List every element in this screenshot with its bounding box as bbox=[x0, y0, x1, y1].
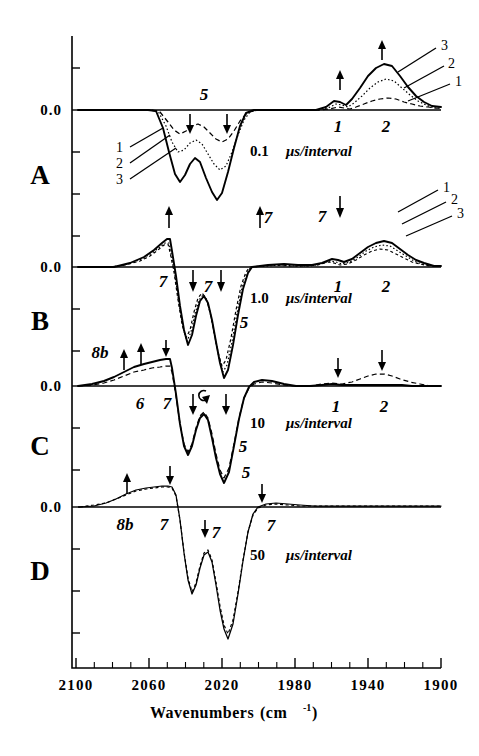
arrow-down-c4 bbox=[334, 358, 342, 378]
x-tick-label: 2020 bbox=[205, 677, 240, 693]
spectra-svg: 0.0 0.0 0.0 0.0 A B C D 5 1 2 1 2 bbox=[0, 0, 479, 756]
interval-value-b: 1.0 bbox=[250, 290, 269, 306]
band-label-a-5: 5 bbox=[200, 85, 209, 104]
x-tick-label: 1980 bbox=[278, 677, 313, 693]
y-axis-ticks bbox=[72, 68, 80, 633]
x-axis-tick-labels: 210020602020198019401900 bbox=[59, 677, 459, 693]
band-label-b-7b: 7 bbox=[204, 277, 214, 296]
interval-value-d: 50 bbox=[250, 547, 265, 563]
leader-b-2 bbox=[402, 202, 446, 224]
trace-num-a-2: 2 bbox=[116, 156, 123, 171]
band-label-a-2: 2 bbox=[381, 117, 391, 136]
panel-letter-a: A bbox=[30, 160, 50, 190]
figure-trir-spectra: 0.0 0.0 0.0 0.0 A B C D 5 1 2 1 2 bbox=[0, 0, 479, 756]
x-tick-label: 2100 bbox=[59, 677, 94, 693]
band-label-b-7a: 7 bbox=[159, 272, 169, 291]
trace-num-a-1: 1 bbox=[116, 140, 123, 155]
arrow-down-c2 bbox=[189, 394, 197, 415]
panel-a-annotations: 5 1 2 1 2 3 3 2 1 0.1 μs/interval bbox=[116, 38, 462, 187]
arrow-down-c3 bbox=[222, 394, 230, 415]
band-label-a-1: 1 bbox=[334, 117, 343, 136]
panel-b-traces bbox=[78, 239, 441, 378]
zero-label-c: 0.0 bbox=[40, 378, 62, 394]
leader-a-1r bbox=[408, 84, 450, 101]
zero-label-b: 0.0 bbox=[40, 259, 62, 275]
interval-value-c: 10 bbox=[250, 415, 265, 431]
x-title-unit-sup: -1 bbox=[303, 702, 311, 713]
band-label-c-6: 6 bbox=[136, 394, 145, 413]
leader-a-3 bbox=[130, 148, 176, 179]
leader-a-3r bbox=[398, 48, 436, 72]
arrow-down-c5 bbox=[378, 350, 386, 371]
x-tick-label: 1940 bbox=[351, 677, 386, 693]
trace-num-b-1: 1 bbox=[443, 180, 450, 195]
arrow-up-b1 bbox=[165, 206, 173, 228]
arrow-up-c1 bbox=[120, 349, 128, 370]
panel-d-annotations: 8b 7 7 7 5 50 μs/interval bbox=[117, 463, 353, 563]
x-axis-ticks bbox=[76, 658, 441, 668]
band-label-d-7b: 7 bbox=[212, 523, 222, 542]
arrow-down-d2 bbox=[201, 520, 209, 538]
band-label-d-8b: 8b bbox=[117, 515, 134, 534]
band-label-c-2: 2 bbox=[379, 397, 389, 416]
trace-num-a-3r: 3 bbox=[441, 38, 448, 53]
arrow-up-d1 bbox=[123, 473, 131, 494]
band-label-c-5: 5 bbox=[239, 437, 248, 456]
arrow-down-d3 bbox=[258, 484, 266, 503]
arrow-up-a1 bbox=[336, 70, 344, 90]
x-title-unit-open: (cm bbox=[260, 704, 287, 722]
panel-c-annotations: 8b 6 7 5 1 2 10 μs/interval bbox=[92, 340, 389, 456]
x-title-unit-close: ) bbox=[312, 704, 318, 722]
zero-label-a: 0.0 bbox=[40, 102, 62, 118]
interval-unit-c: μs/interval bbox=[285, 415, 353, 431]
band-label-b-2: 2 bbox=[381, 277, 391, 296]
arrow-down-b1 bbox=[189, 270, 197, 292]
arrow-down-b3 bbox=[336, 196, 344, 218]
arrow-hook-c-head bbox=[202, 395, 210, 404]
panel-letter-b: B bbox=[31, 306, 49, 336]
leader-a-2r bbox=[404, 66, 444, 88]
band-label-d-7c: 7 bbox=[267, 516, 277, 535]
panel-b-annotations: 7 7 7 7 5 1 2 1 2 3 1.0 μs/interval bbox=[159, 180, 464, 332]
zero-label-d: 0.0 bbox=[40, 499, 62, 515]
trace-num-a-1r: 1 bbox=[455, 74, 462, 89]
trace-num-b-2: 2 bbox=[451, 192, 458, 207]
panel-letter-d: D bbox=[30, 556, 50, 586]
interval-value-a: 0.1 bbox=[250, 143, 269, 159]
band-label-c-8b: 8b bbox=[92, 343, 109, 362]
band-label-c-1: 1 bbox=[332, 397, 341, 416]
interval-unit-d: μs/interval bbox=[285, 547, 353, 563]
band-label-b-7d: 7 bbox=[318, 207, 328, 226]
trace-num-a-3: 3 bbox=[116, 172, 123, 187]
arrow-down-a2 bbox=[223, 114, 231, 134]
arrow-down-c1 bbox=[162, 340, 170, 357]
x-axis-title: Wavenumbers (cm -1 ) bbox=[150, 702, 318, 722]
arrow-down-a1 bbox=[186, 114, 194, 134]
arrow-up-a2 bbox=[378, 40, 386, 60]
interval-unit-a: μs/interval bbox=[285, 143, 353, 159]
band-label-d-5: 5 bbox=[242, 463, 251, 482]
trace-num-b-3: 3 bbox=[457, 206, 464, 221]
arrow-down-b2 bbox=[217, 270, 225, 292]
arrow-down-d1 bbox=[166, 466, 174, 485]
band-label-b-5: 5 bbox=[240, 313, 249, 332]
trace-num-a-2r: 2 bbox=[448, 56, 455, 71]
band-label-b-7c: 7 bbox=[264, 208, 274, 227]
leader-a-2 bbox=[130, 135, 170, 163]
interval-unit-b: μs/interval bbox=[285, 290, 353, 306]
x-tick-label: 1900 bbox=[424, 677, 459, 693]
x-tick-label: 2060 bbox=[132, 677, 167, 693]
band-label-d-7a: 7 bbox=[160, 515, 170, 534]
band-label-c-7: 7 bbox=[163, 394, 173, 413]
arrow-up-c2 bbox=[137, 343, 145, 364]
x-title-main: Wavenumbers bbox=[150, 704, 254, 721]
panel-letter-c: C bbox=[30, 431, 50, 461]
